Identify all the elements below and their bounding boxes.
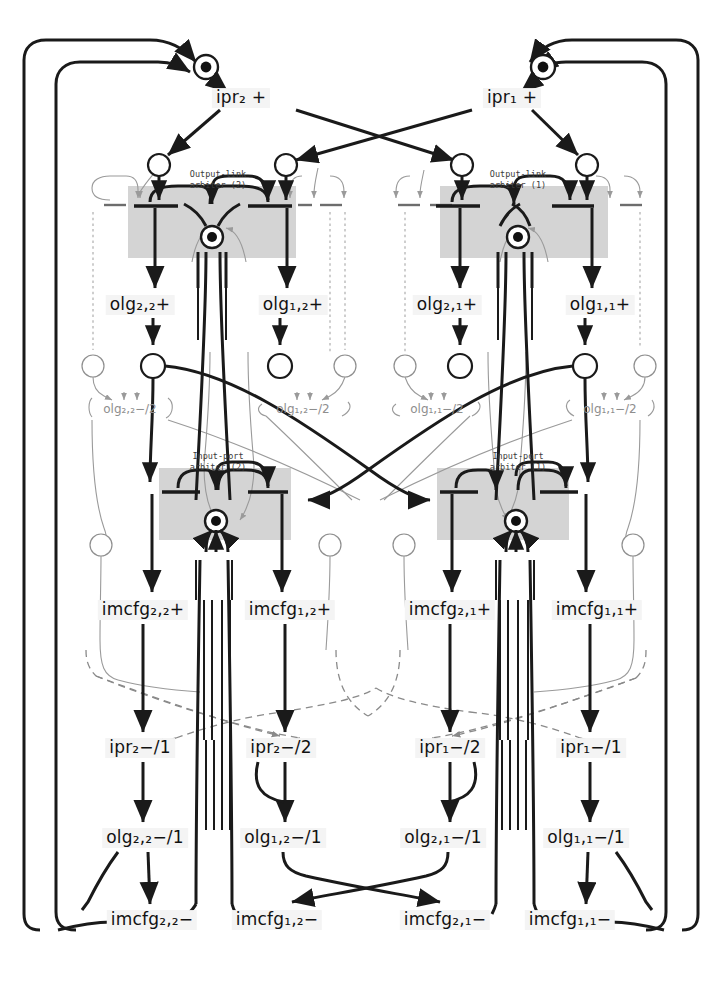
- output-link-arbiter-2-label: Output-link arbiter (2): [190, 169, 246, 190]
- diagram-canvas: ipr₂ +ipr₁ +olg₂,₂+olg₁,₂+olg₂,₁+olg₁,₁+…: [0, 0, 721, 986]
- imcfg22-minus: imcfg₂,₂−: [107, 910, 197, 930]
- olg22-minus-1: olg₂,₂−/1: [102, 828, 188, 848]
- olg21-minus-2: olg₁,₁−/2: [583, 402, 636, 416]
- imcfg22-plus: imcfg₂,₂+: [98, 600, 188, 620]
- input-port-arbiter-2-label: Input-port arbiter (2): [190, 451, 246, 472]
- output-link-arbiter-1-label: Output-link arbiter (1): [490, 169, 546, 190]
- dashed-constraint-layer: [86, 650, 646, 744]
- imcfg21-plus: imcfg₂,₁+: [405, 600, 495, 620]
- imcfg11-plus: imcfg₁,₁+: [552, 600, 642, 620]
- olg11-plus: olg₁,₁+: [566, 295, 635, 315]
- main-arc-layer: [24, 40, 698, 930]
- ipr1-minus-1: ipr₁−/1: [556, 738, 626, 758]
- olg21-plus: olg₂,₁+: [413, 295, 482, 315]
- olg22-plus: olg₂,₂+: [106, 295, 175, 315]
- input-port-arbiter-1-label: Input-port arbiter (1): [490, 451, 546, 472]
- imcfg12-plus: imcfg₁,₂+: [245, 600, 335, 620]
- olg12-minus-2: olg₁,₂−/2: [276, 402, 329, 416]
- olg22-minus-2: olg₂,₂−/2: [103, 402, 156, 416]
- ipr2-plus: ipr₂ +: [212, 88, 270, 108]
- ipr2-minus-1: ipr₂−/1: [105, 738, 175, 758]
- olg12-minus-1: olg₁,₂−/1: [240, 828, 326, 848]
- imcfg11-minus: imcfg₁,₁−: [525, 910, 615, 930]
- imcfg21-minus: imcfg₂,₁−: [400, 910, 490, 930]
- olg21-minus-1: olg₂,₁−/1: [400, 828, 486, 848]
- olg12-plus: olg₁,₂+: [259, 295, 328, 315]
- ipr1-plus: ipr₁ +: [483, 88, 541, 108]
- ipr2-minus-2: ipr₂−/2: [246, 738, 316, 758]
- ipr1-minus-2: ipr₁−/2: [415, 738, 485, 758]
- olg11-minus-2: olg₁,₁−/2: [410, 402, 463, 416]
- imcfg12-minus: imcfg₁,₂−: [232, 910, 322, 930]
- olg11-minus-1: olg₁,₁−/1: [543, 828, 629, 848]
